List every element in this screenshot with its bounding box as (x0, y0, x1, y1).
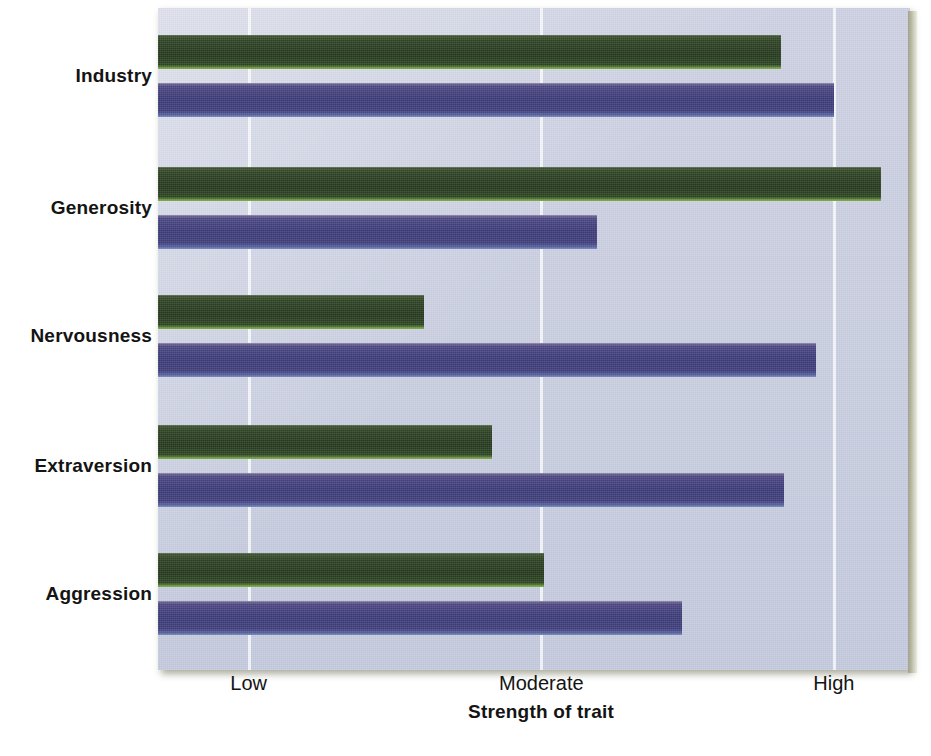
category-label-generosity: Generosity (0, 197, 152, 219)
bar-extraversion-green (158, 425, 492, 459)
x-tick-high: High (813, 672, 854, 695)
bar-generosity-purple (158, 215, 597, 249)
bar-aggression-purple (158, 601, 682, 635)
page-edge-decoration (908, 11, 917, 673)
bar-extraversion-purple (158, 473, 784, 507)
plot-area (158, 8, 910, 670)
bar-industry-purple (158, 83, 834, 117)
bar-generosity-green (158, 167, 881, 201)
category-label-industry: Industry (0, 65, 152, 87)
bar-aggression-green (158, 553, 544, 587)
bar-nervousness-green (158, 295, 424, 329)
x-tick-moderate: Moderate (499, 672, 584, 695)
category-label-aggression: Aggression (0, 583, 152, 605)
category-label-extraversion: Extraversion (0, 455, 152, 477)
bar-nervousness-purple (158, 343, 816, 377)
x-axis-title: Strength of trait (468, 701, 614, 723)
bar-industry-green (158, 35, 781, 69)
x-tick-low: Low (230, 672, 267, 695)
bar-chart-figure: IndustryGenerosityNervousnessExtraversio… (0, 0, 931, 756)
category-label-nervousness: Nervousness (0, 325, 152, 347)
